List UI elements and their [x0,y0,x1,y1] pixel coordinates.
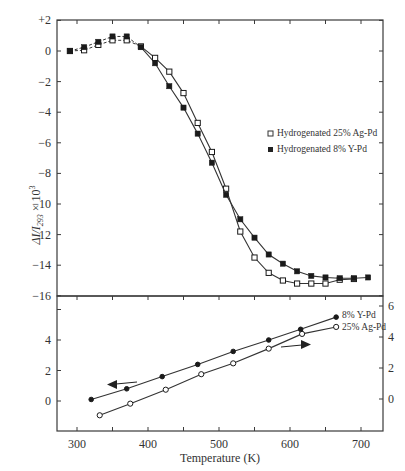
chart-figure: +20−2−4−6−8−10−12−14−16 3004005006007000… [0,0,405,471]
lower-left-y-tick-label: 0 [45,394,51,408]
filled-square-marker-icon [238,217,243,222]
x-tick-label: 700 [352,437,370,451]
upper-series-dashed-segment [70,36,141,51]
svg-text:ΔI/I293 × 103: ΔI/I293 × 103 [28,185,45,245]
upper-y-tick-label: 0 [45,44,51,58]
filled-circle-marker-icon [231,349,236,354]
open-square-marker-icon [238,229,243,234]
y-axis-title-sub: 293 [36,214,45,226]
filled-circle-marker-icon [195,362,200,367]
filled-circle-marker-icon [266,338,271,343]
lower-left-y-tick-label: 4 [45,333,51,347]
filled-circle-marker-icon [124,387,129,392]
filled-square-marker-icon [195,131,200,136]
filled-square-marker-icon [124,34,129,39]
open-square-marker-icon [252,255,257,260]
lower-right-y-tick-label: 4 [388,330,394,344]
filled-square-marker-icon [295,269,300,274]
filled-square-marker-icon [309,273,314,278]
filled-circle-marker-icon [334,315,339,320]
upper-series-line [141,47,368,278]
filled-square-marker-icon [138,45,143,50]
upper-series-line [141,46,354,283]
legend-open-square-icon [268,131,273,136]
open-circle-marker-icon [231,361,236,366]
open-square-marker-icon [209,149,214,154]
upper-plot-frame [57,20,383,296]
open-circle-marker-icon [266,346,271,351]
open-circle-marker-icon [299,331,304,336]
filled-square-marker-icon [167,84,172,89]
open-circle-marker-icon [128,401,133,406]
y-axis-title: ΔI/I293 × 103 [28,185,45,245]
filled-circle-marker-icon [160,374,165,379]
open-square-marker-icon [295,281,300,286]
filled-square-marker-icon [351,276,356,281]
filled-square-marker-icon [153,61,158,66]
x-tick-label: 300 [68,437,86,451]
upper-y-tick-label: −14 [32,258,51,272]
open-square-marker-icon [309,281,314,286]
upper-y-tick-label: −2 [38,75,51,89]
upper-y-tick-label: −6 [38,136,51,150]
filled-square-marker-icon [110,34,115,39]
lower-left-y-tick-label: 2 [45,364,51,378]
open-square-marker-icon [153,55,158,60]
cooling-arrow-left-icon [107,380,137,389]
x-tick-label: 500 [210,437,228,451]
open-square-marker-icon [323,281,328,286]
open-square-marker-icon [195,120,200,125]
upper-panel: +20−2−4−6−8−10−12−14−16 [32,13,383,302]
filled-square-marker-icon [82,45,87,50]
upper-y-tick-label: −16 [32,289,51,303]
lower-right-y-tick-label: 6 [388,299,394,313]
annotation-y-pd: 8% Y-Pd [342,310,376,320]
open-circle-marker-icon [97,413,102,418]
filled-square-marker-icon [366,275,371,280]
filled-square-marker-icon [252,235,257,240]
filled-square-marker-icon [280,261,285,266]
filled-square-marker-icon [323,275,328,280]
open-square-marker-icon [181,90,186,95]
filled-square-marker-icon [337,276,342,281]
x-axis-title: Temperature (K) [180,451,260,465]
open-circle-marker-icon [199,372,204,377]
lower-right-y-tick-label: 2 [388,361,394,375]
upper-y-tick-label: −4 [38,105,51,119]
legend: Hydrogenated 25% Ag-Pd Hydrogenated 8% Y… [268,128,378,154]
filled-square-marker-icon [96,39,101,44]
chart-canvas: +20−2−4−6−8−10−12−14−16 3004005006007000… [0,0,405,471]
lower-series-line [100,327,336,415]
filled-square-marker-icon [209,160,214,165]
legend-label-y-pd: Hydrogenated 8% Y-Pd [277,144,367,154]
open-square-marker-icon [280,278,285,283]
y-axis-title-sup: 3 [28,185,37,189]
annotation-ag-pd: 25% Ag-Pd [342,322,386,332]
filled-circle-marker-icon [89,397,94,402]
y-axis-title-tail: × 10 [29,189,43,214]
upper-series-dashed-segment [70,40,141,51]
filled-square-marker-icon [266,252,271,257]
x-tick-label: 400 [139,437,157,451]
legend-filled-square-icon [268,147,273,152]
legend-label-ag-pd: Hydrogenated 25% Ag-Pd [277,128,378,138]
y-axis-title-main: ΔI/I [29,225,43,245]
lower-right-y-tick-label: 0 [388,392,394,406]
open-circle-marker-icon [163,387,168,392]
open-square-marker-icon [167,69,172,74]
open-square-marker-icon [266,270,271,275]
filled-square-marker-icon [181,105,186,110]
upper-y-tick-label: −8 [38,166,51,180]
filled-square-marker-icon [224,192,229,197]
open-circle-marker-icon [334,324,339,329]
x-tick-label: 600 [281,437,299,451]
upper-y-tick-label: +2 [38,13,51,27]
filled-square-marker-icon [67,48,72,53]
